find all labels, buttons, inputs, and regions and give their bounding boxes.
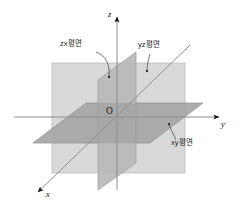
coordinate-planes-figure: zx평면 yz평면 xy평면 z y x O	[0, 0, 237, 218]
y-axis-label: y	[221, 120, 225, 129]
xy-plane-label: xy평면	[171, 139, 193, 147]
figure-canvas	[0, 0, 237, 218]
zx-plane-label: zx평면	[60, 40, 82, 48]
x-axis-label: x	[46, 190, 50, 199]
origin-label: O	[106, 107, 113, 117]
yz-plane-label: yz평면	[138, 41, 160, 49]
z-axis-label: z	[108, 10, 111, 19]
